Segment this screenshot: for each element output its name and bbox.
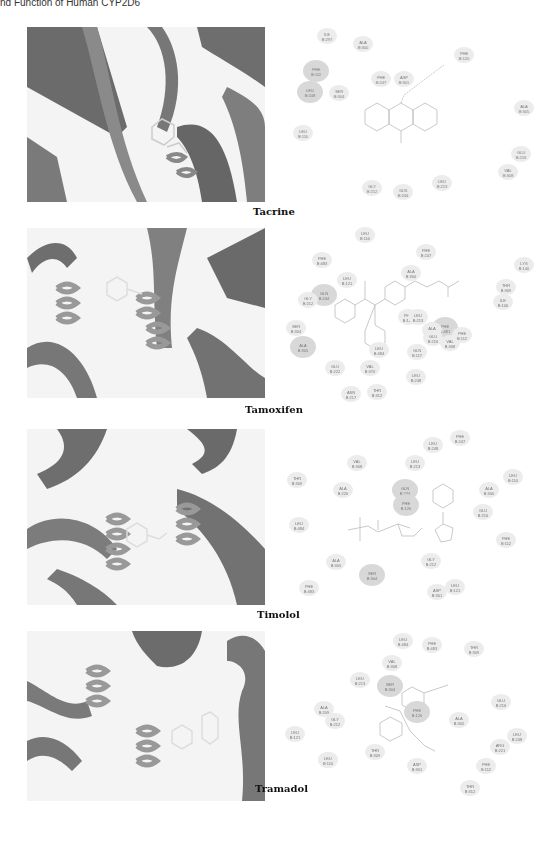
residue-id: B:484 [294,526,305,531]
residue-bubble: LEUB:213 [408,309,428,325]
residue-id: B:483 [317,261,328,266]
residue-bubble: ASPB:301 [394,71,414,87]
residue-id: B:212 [330,722,341,727]
residue-id: B:247 [421,253,432,258]
residue-bubble: LEUB:248 [297,81,323,103]
residue-bubble: GLYB:212 [298,292,318,308]
residue-id: B:216 [428,339,439,344]
residue-bubble: ALAB:220 [333,482,353,498]
residue-bubble: GLYB:212 [325,713,345,729]
protein-structure-image [27,27,265,202]
residue-id: B:305 [331,563,342,568]
residue-id: B:300 [406,274,417,279]
residue-bubble: LEUB:110 [355,227,375,243]
residue-bubble: GLYB:212 [362,180,382,196]
residue-bubble: PHEB:112 [452,327,472,343]
residue-bubble: ASNB:217 [341,386,361,402]
residue-bubble: GLYB:212 [421,553,441,569]
residue-id: B:112 [501,541,512,546]
interaction-diagram-svg: LEUB:110PHEB:483PHEB:247ALAB:300LYSB:140… [280,225,543,410]
residue-bubble: ARGB:221 [490,739,510,755]
interaction-diagram: ILEB:297ALAB:300PHEB:120PHEB:112PHEB:247… [280,20,543,210]
residue-id: B:110 [360,236,371,241]
residue-id: B:112 [457,336,468,341]
figure-panel-tamoxifen: Tamoxifen LEUB:110PHEB:483PHEB:247ALAB:3… [0,220,543,420]
residue-bubble: PHEB:112 [303,60,329,82]
residue-id: B:216 [516,155,527,160]
residue-id: B:312 [372,393,383,398]
residue-bubble: THRB:309 [496,279,516,295]
residue-id: B:213 [413,318,424,323]
figure-panel-tramadol: Tramadol LEUB:484PHEB:483THRB:309VALB:30… [0,625,543,843]
residue-bubble: ALAB:300 [353,36,373,52]
residue-bubble: SERB:304 [377,675,403,697]
interaction-diagram-svg: LEUB:248PHEB:247VALB:308LEUB:213THRB:309… [280,425,543,610]
residue-id: B:297 [322,37,333,42]
residue-id: B:309 [370,753,381,758]
residue-bubble: THRB:312 [460,780,480,796]
residue-id: B:117 [412,353,423,358]
residue-bubble: THRB:309 [287,472,307,488]
residue-id: B:309 [501,288,512,293]
residue-id: B:301 [412,767,423,772]
residue-bubble: ASPB:301 [407,758,427,774]
residue-id: B:209 [319,710,330,715]
interaction-diagram-svg: LEUB:484PHEB:483THRB:309VALB:308LEUB:213… [280,628,543,798]
residue-id: B:110 [323,761,334,766]
residue-bubble: PHEB:120 [393,494,419,516]
residue-bubble: LEUB:484 [369,342,389,358]
residue-id: B:484 [398,642,409,647]
residue-id: B:212 [367,189,378,194]
residue-id: B:121 [290,735,301,740]
residue-id: B:304 [385,687,396,692]
residue-bubble: PHEB:120 [454,47,474,63]
residue-bubble: LEUB:484 [393,633,413,649]
residue-id: B:247 [455,439,466,444]
residue-id: B:301 [432,593,443,598]
residue-bubble: ALAB:305 [514,100,534,116]
figure-caption: Timolol [257,609,300,620]
residue-id: B:309 [469,650,480,655]
residue-bubble: LEUB:110 [293,125,313,141]
residue-id: B:112 [311,72,322,77]
residue-id: B:247 [376,80,387,85]
residue-bubble: ALAB:305 [290,336,316,358]
residue-id: B:309 [292,481,303,486]
residue-id: B:483 [427,646,438,651]
residue-bubble: PHEB:112 [496,532,516,548]
residue-id: B:248 [428,446,439,451]
residue-id: B:300 [358,45,369,50]
residue-bubble: ASPB:301 [427,584,447,600]
residue-bubble: THRB:312 [367,384,387,400]
residue-bubble: PHEB:483 [299,580,319,596]
residue-bubble: ALAB:305 [326,554,346,570]
residue-id: B:213 [410,464,421,469]
residue-bubble: VALB:370 [360,360,380,376]
residue-id: B:308 [503,173,514,178]
residue-id: B:213 [437,184,448,189]
residue-id: B:304 [291,329,302,334]
protein-structure-image [27,631,265,801]
residue-bubble: LEUB:248 [406,369,426,385]
residue-id: B:106 [498,303,509,308]
residue-id: B:484 [374,351,385,356]
residue-id: B:221 [495,748,506,753]
interaction-diagram: LEUB:484PHEB:483THRB:309VALB:308LEUB:213… [280,628,543,798]
residue-bubble: VALB:308 [347,455,367,471]
residue-id: B:110 [508,478,519,483]
residue-id: B:301 [399,80,410,85]
residue-id: B:248 [411,378,422,383]
residue-id: B:305 [454,721,465,726]
protein-structure-image [27,429,265,605]
residue-id: B:217 [346,395,357,400]
residue-bubble: LEUB:484 [289,517,309,533]
residue-bubble: LEUB:121 [285,726,305,742]
residue-bubble: ALAB:300 [479,482,499,498]
residue-id: B:220 [338,491,349,496]
residue-bubble: LEUB:248 [423,437,443,453]
residue-id: B:120 [401,506,412,511]
residue-id: B:216 [496,703,507,708]
residue-id: B:212 [426,562,437,567]
residue-id: B:213 [355,681,366,686]
residue-bubble: ILEB:297 [317,28,337,44]
